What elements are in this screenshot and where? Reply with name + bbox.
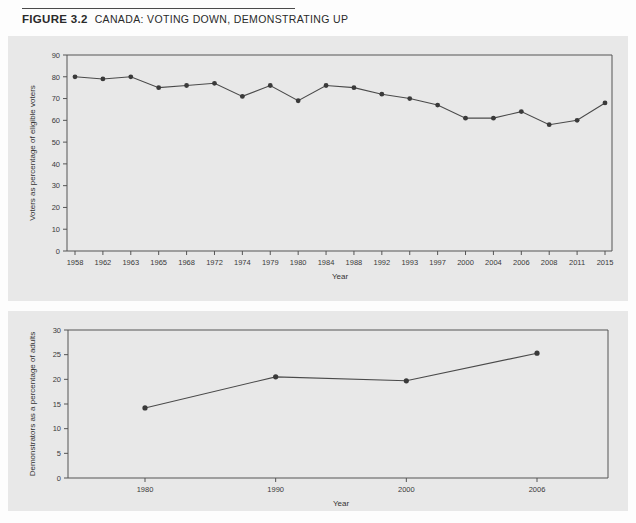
data-point-marker: [268, 83, 273, 88]
x-tick-label: 1979: [262, 258, 279, 267]
x-tick-label: 2006: [513, 258, 530, 267]
x-tick-label: 1980: [137, 485, 154, 494]
x-tick-label: 1993: [401, 258, 418, 267]
y-tick-label: 0: [57, 474, 61, 483]
data-point-marker: [128, 74, 133, 79]
data-point-marker: [534, 351, 539, 356]
y-tick-label: 25: [53, 350, 61, 359]
data-point-marker: [324, 83, 329, 88]
data-point-marker: [519, 109, 524, 114]
chart-panel-voting: 0102030405060708090195819621963196519681…: [8, 36, 628, 301]
y-tick-label: 20: [52, 203, 60, 212]
voting-line-chart: 0102030405060708090195819621963196519681…: [8, 36, 628, 301]
x-tick-label: 2000: [457, 258, 474, 267]
data-point-marker: [603, 101, 608, 106]
x-tick-label: 2011: [569, 258, 585, 267]
data-point-marker: [184, 83, 189, 88]
x-tick-label: 1965: [150, 258, 167, 267]
data-point-marker: [379, 92, 384, 97]
figure-label: FIGURE 3.2: [22, 13, 88, 25]
x-axis-title: Year: [333, 499, 350, 508]
y-tick-label: 10: [53, 424, 61, 433]
x-tick-label: 1992: [373, 258, 390, 267]
y-tick-label: 10: [52, 225, 60, 234]
data-point-marker: [240, 94, 245, 99]
data-point-marker: [491, 116, 496, 121]
x-tick-label: 2008: [541, 258, 558, 267]
x-tick-label: 1980: [290, 258, 307, 267]
series-line: [145, 353, 537, 408]
data-point-marker: [547, 122, 552, 127]
data-point-marker: [435, 103, 440, 108]
y-tick-label: 50: [52, 138, 60, 147]
x-tick-label: 2015: [597, 258, 614, 267]
figure-title: CANADA: VOTING DOWN, DEMONSTRATING UP: [95, 13, 349, 25]
y-tick-label: 60: [52, 116, 60, 125]
x-tick-label: 2004: [485, 258, 502, 267]
x-tick-label: 1990: [267, 485, 284, 494]
plot-frame: [68, 330, 608, 478]
x-tick-label: 1988: [346, 258, 363, 267]
x-axis-title: Year: [332, 272, 349, 281]
data-point-marker: [463, 116, 468, 121]
data-point-marker: [404, 378, 409, 383]
y-tick-label: 40: [52, 160, 60, 169]
data-point-marker: [142, 405, 147, 410]
caption-rule: [22, 8, 295, 9]
figure-caption: FIGURE 3.2CANADA: VOTING DOWN, DEMONSTRA…: [22, 13, 348, 31]
data-point-marker: [273, 374, 278, 379]
x-tick-label: 2000: [398, 485, 415, 494]
y-tick-label: 0: [56, 247, 60, 256]
x-tick-label: 1963: [122, 258, 139, 267]
demonstrators-line-chart: 0510152025301980199020002006YearDemonstr…: [8, 311, 628, 511]
y-tick-label: 80: [52, 73, 60, 82]
x-tick-label: 1968: [178, 258, 195, 267]
data-point-marker: [296, 98, 301, 103]
data-point-marker: [407, 96, 412, 101]
data-point-marker: [156, 85, 161, 90]
x-tick-label: 1997: [429, 258, 446, 267]
x-tick-label: 1974: [234, 258, 251, 267]
y-tick-label: 20: [53, 375, 61, 384]
data-point-marker: [575, 118, 580, 123]
x-tick-label: 2006: [529, 485, 546, 494]
data-point-marker: [352, 85, 357, 90]
data-point-marker: [100, 77, 105, 82]
x-tick-label: 1972: [206, 258, 223, 267]
y-tick-label: 30: [52, 181, 60, 190]
series-line: [75, 77, 605, 125]
y-axis-title: Demonstrators as a percentage of adults: [28, 332, 37, 477]
y-tick-label: 5: [57, 449, 61, 458]
plot-frame: [67, 55, 612, 251]
x-tick-label: 1958: [67, 258, 84, 267]
y-axis-title: Voters as percentage of eligible voters: [28, 85, 37, 221]
data-point-marker: [73, 74, 78, 79]
figure-page: FIGURE 3.2CANADA: VOTING DOWN, DEMONSTRA…: [0, 0, 636, 523]
y-tick-label: 15: [53, 400, 61, 409]
chart-panel-demonstrators: 0510152025301980199020002006YearDemonstr…: [8, 311, 628, 511]
data-point-marker: [212, 81, 217, 86]
x-tick-label: 1962: [95, 258, 112, 267]
x-tick-label: 1984: [318, 258, 335, 267]
y-tick-label: 90: [52, 51, 60, 60]
y-tick-label: 30: [53, 326, 61, 335]
y-tick-label: 70: [52, 94, 60, 103]
